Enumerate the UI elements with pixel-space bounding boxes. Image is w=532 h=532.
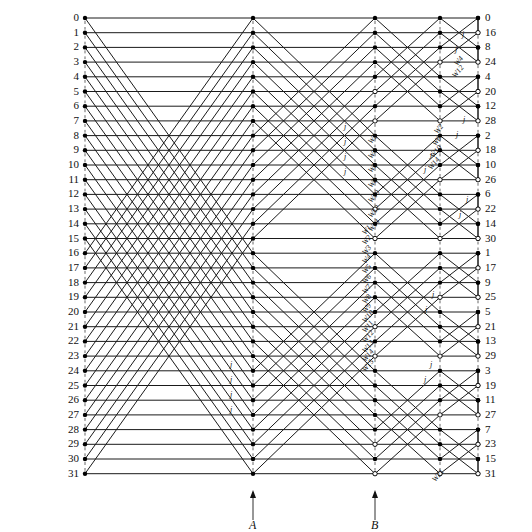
butterfly-node <box>373 16 377 20</box>
butterfly-node <box>476 192 480 196</box>
butterfly-node-open <box>476 148 480 152</box>
butterfly-node <box>251 369 255 373</box>
j-multiplier-label: j <box>230 360 232 369</box>
output-index-label: 20 <box>485 86 496 97</box>
butterfly-node-open <box>476 472 480 476</box>
input-index-label: 25 <box>49 380 79 391</box>
butterfly-node <box>83 413 87 417</box>
butterfly-node <box>251 266 255 270</box>
butterfly-node <box>438 192 442 196</box>
j-multiplier-label: j <box>463 115 465 124</box>
butterfly-node <box>83 178 87 182</box>
butterfly-node <box>251 427 255 431</box>
input-index-label: 15 <box>49 233 79 244</box>
butterfly-node <box>251 295 255 299</box>
output-index-label: 30 <box>485 233 496 244</box>
butterfly-node <box>251 472 255 476</box>
butterfly-node-open <box>476 325 480 329</box>
butterfly-node <box>438 31 442 35</box>
butterfly-node <box>83 31 87 35</box>
butterfly-node <box>476 457 480 461</box>
butterfly-node <box>83 148 87 152</box>
output-index-label: 28 <box>485 115 496 126</box>
output-index-label: 5 <box>485 306 491 317</box>
butterfly-node <box>476 251 480 255</box>
butterfly-node <box>251 325 255 329</box>
butterfly-node <box>373 31 377 35</box>
butterfly-node-open <box>476 31 480 35</box>
output-index-label: 22 <box>485 203 496 214</box>
input-index-label: 4 <box>49 71 79 82</box>
input-index-label: 1 <box>49 27 79 38</box>
butterfly-node-open <box>476 236 480 240</box>
input-index-label: 24 <box>49 365 79 376</box>
input-index-label: 18 <box>49 277 79 288</box>
j-multiplier-label: j <box>456 130 458 139</box>
butterfly-node <box>438 266 442 270</box>
butterfly-node <box>83 192 87 196</box>
output-index-label: 10 <box>485 159 496 170</box>
input-index-label: 11 <box>49 174 79 185</box>
input-index-label: 21 <box>49 321 79 332</box>
butterfly-node-open <box>373 89 377 93</box>
butterfly-node-open <box>373 119 377 123</box>
input-index-label: 17 <box>49 262 79 273</box>
butterfly-node <box>476 398 480 402</box>
butterfly-node <box>438 369 442 373</box>
butterfly-node <box>83 310 87 314</box>
butterfly-node <box>251 354 255 358</box>
butterfly-node <box>438 325 442 329</box>
butterfly-node <box>251 163 255 167</box>
output-index-label: 21 <box>485 321 496 332</box>
input-index-label: 5 <box>49 86 79 97</box>
butterfly-node-open <box>476 354 480 358</box>
output-index-label: 12 <box>485 100 496 111</box>
butterfly-node-open <box>476 442 480 446</box>
butterfly-node <box>476 104 480 108</box>
butterfly-node-open <box>476 119 480 123</box>
butterfly-node <box>438 310 442 314</box>
input-index-label: 8 <box>49 130 79 141</box>
butterfly-graph-canvas <box>0 0 532 532</box>
output-index-label: 31 <box>485 468 496 479</box>
butterfly-node <box>476 280 480 284</box>
output-index-label: 11 <box>485 394 496 405</box>
butterfly-node <box>438 427 442 431</box>
j-multiplier-label: j <box>430 360 432 369</box>
butterfly-node-open <box>476 178 480 182</box>
butterfly-node <box>373 369 377 373</box>
butterfly-node-open <box>438 413 442 417</box>
butterfly-node-open <box>438 295 442 299</box>
output-index-label: 14 <box>485 218 496 229</box>
butterfly-node <box>83 266 87 270</box>
butterfly-node <box>438 207 442 211</box>
output-index-label: 24 <box>485 56 496 67</box>
butterfly-node-open <box>373 442 377 446</box>
butterfly-node <box>373 104 377 108</box>
butterfly-node <box>251 16 255 20</box>
butterfly-node <box>251 60 255 64</box>
output-index-label: 25 <box>485 291 496 302</box>
butterfly-node <box>476 45 480 49</box>
butterfly-node <box>251 398 255 402</box>
input-index-label: 3 <box>49 56 79 67</box>
j-multiplier-label: j <box>344 152 346 161</box>
butterfly-node <box>251 31 255 35</box>
butterfly-node <box>83 89 87 93</box>
butterfly-node <box>476 133 480 137</box>
butterfly-node-open <box>438 236 442 240</box>
butterfly-node <box>83 398 87 402</box>
j-multiplier-label: j <box>344 122 346 131</box>
butterfly-node-open <box>373 236 377 240</box>
stage-marker-b: B <box>371 518 378 532</box>
butterfly-node-open <box>476 413 480 417</box>
butterfly-node <box>83 251 87 255</box>
butterfly-node <box>83 16 87 20</box>
output-index-label: 2 <box>485 130 491 141</box>
output-index-label: 7 <box>485 424 491 435</box>
butterfly-node-open <box>438 354 442 358</box>
input-index-label: 14 <box>49 218 79 229</box>
input-index-label: 28 <box>49 424 79 435</box>
butterfly-node <box>476 310 480 314</box>
j-multiplier-label: j <box>230 405 232 414</box>
